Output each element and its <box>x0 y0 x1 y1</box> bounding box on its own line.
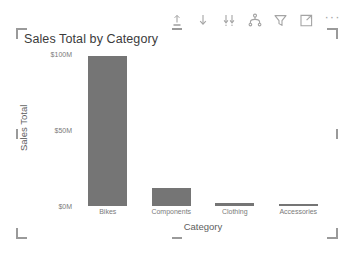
bar[interactable] <box>88 56 127 206</box>
visual-header-toolbar: ··· <box>160 9 345 31</box>
plot-area <box>76 54 330 206</box>
bar[interactable] <box>215 203 254 206</box>
x-axis-tick[interactable]: Clothing <box>203 208 267 222</box>
filter-funnel-icon[interactable] <box>272 11 289 29</box>
bar-series <box>76 54 330 206</box>
y-axis-tick: $100M <box>51 51 72 58</box>
x-axis-title: Category <box>76 221 330 232</box>
bar[interactable] <box>279 204 318 206</box>
y-axis-tick: $0M <box>58 203 72 210</box>
expand-next-level-icon[interactable] <box>220 11 237 29</box>
drill-mode-icon[interactable] <box>246 11 263 29</box>
chart-title: Sales Total by Category <box>24 32 158 46</box>
drill-up-icon[interactable] <box>168 11 185 29</box>
bar[interactable] <box>152 188 191 206</box>
selection-handle-middle-right[interactable] <box>336 129 338 139</box>
bar-slot <box>203 54 267 206</box>
y-axis-tick-labels: $0M$50M$100M <box>30 54 74 206</box>
x-axis-tick[interactable]: Bikes <box>76 208 140 222</box>
bar-chart-visual[interactable]: Sales Total by Category Sales Total $0M$… <box>18 30 336 237</box>
x-axis-tick[interactable]: Accessories <box>267 208 331 222</box>
y-axis-title: Sales Total <box>16 88 30 168</box>
drill-down-arrow-icon[interactable] <box>194 11 211 29</box>
selection-handle-top-right[interactable] <box>327 28 338 39</box>
selection-handle-middle-bottom[interactable] <box>172 237 182 239</box>
x-axis-tick-labels: BikesComponentsClothingAccessories <box>76 208 330 222</box>
bar-slot <box>140 54 204 206</box>
y-axis-tick: $50M <box>54 127 72 134</box>
selection-handle-middle-top[interactable] <box>172 28 182 30</box>
bar-slot <box>76 54 140 206</box>
selection-handle-bottom-left[interactable] <box>16 228 27 239</box>
focus-mode-icon[interactable] <box>298 11 315 29</box>
x-axis-tick[interactable]: Components <box>140 208 204 222</box>
bar-slot <box>267 54 331 206</box>
